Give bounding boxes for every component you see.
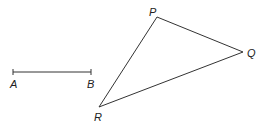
label-b: B: [87, 78, 94, 90]
label-p: P: [149, 6, 157, 18]
triangle-pqr: P Q R: [94, 6, 256, 123]
label-r: R: [94, 111, 102, 123]
label-q: Q: [247, 47, 256, 59]
segment-ab: A B: [9, 69, 94, 90]
triangle-pqr-outline: [99, 17, 243, 107]
geometry-diagram: A B P Q R: [0, 0, 261, 130]
label-a: A: [9, 78, 17, 90]
